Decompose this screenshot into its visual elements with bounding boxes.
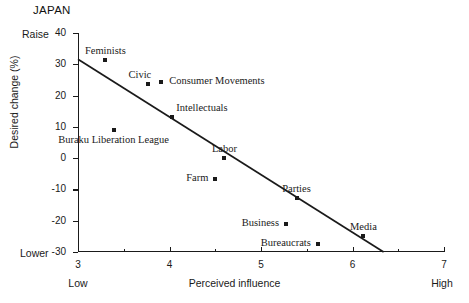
y-tick (73, 64, 78, 65)
data-point-label: Labor (212, 143, 237, 154)
x-tick (444, 247, 445, 252)
data-point-marker (103, 58, 107, 62)
data-point-marker (316, 242, 320, 246)
y-axis-title: Desired change (%) (8, 22, 20, 182)
x-tick-label: 7 (431, 259, 457, 270)
data-point-label: Media (350, 221, 377, 232)
y-tick (73, 189, 78, 190)
y-tick (73, 221, 78, 222)
y-tick (73, 33, 78, 34)
data-point-label: Consumer Movements (169, 75, 264, 86)
data-point-label: Intellectuals (176, 102, 227, 113)
y-tick-label: 20 (40, 90, 66, 101)
data-point-marker (361, 234, 365, 238)
data-point-label: Business (242, 217, 279, 228)
y-tick (73, 158, 78, 159)
data-point-label: Farm (186, 172, 208, 183)
y-tick-label: 0 (40, 152, 66, 163)
x-tick-minor (124, 249, 125, 252)
y-tick (73, 252, 78, 253)
y-tick-label: 10 (40, 121, 66, 132)
x-tick (170, 247, 171, 252)
data-point-marker (112, 128, 116, 132)
data-point-marker (213, 177, 217, 181)
x-axis-title: Perceived influence (0, 277, 469, 289)
y-tick (73, 96, 78, 97)
x-tick-minor (215, 249, 216, 252)
data-point-label: Feminists (85, 45, 126, 56)
y-tick-label: -10 (40, 183, 66, 194)
x-tick-label: 5 (248, 259, 274, 270)
x-tick-minor (398, 249, 399, 252)
x-tick-label: 3 (65, 259, 91, 270)
x-tick (353, 247, 354, 252)
data-point-marker (146, 82, 150, 86)
x-tick-label: 6 (340, 259, 366, 270)
y-tick-label: 30 (40, 58, 66, 69)
chart-title: JAPAN (33, 4, 71, 16)
data-point-marker (159, 80, 163, 84)
x-tick (78, 247, 79, 252)
y-tick-label: 40 (40, 27, 66, 38)
data-point-marker (170, 115, 174, 119)
data-point-label: Buraku Liberation League (58, 134, 169, 145)
data-point-label: Parties (282, 183, 311, 194)
x-tick-minor (307, 249, 308, 252)
data-point-marker (284, 222, 288, 226)
y-tick (73, 127, 78, 128)
y-tick-label: -20 (40, 215, 66, 226)
data-point-marker (222, 156, 226, 160)
data-point-label: Bureaucrats (261, 237, 311, 248)
chart-figure: JAPAN Raise Lower Low High Desired chang… (0, 0, 469, 303)
y-tick-label: -30 (40, 246, 66, 257)
data-point-marker (295, 196, 299, 200)
data-point-label: Civic (129, 69, 152, 80)
x-tick-label: 4 (157, 259, 183, 270)
